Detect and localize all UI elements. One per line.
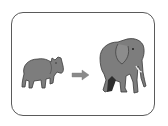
illustration-canvas [0,0,168,126]
elephant-icon [100,39,146,93]
tapir-icon [22,57,63,88]
arrow-right-icon [72,70,89,80]
